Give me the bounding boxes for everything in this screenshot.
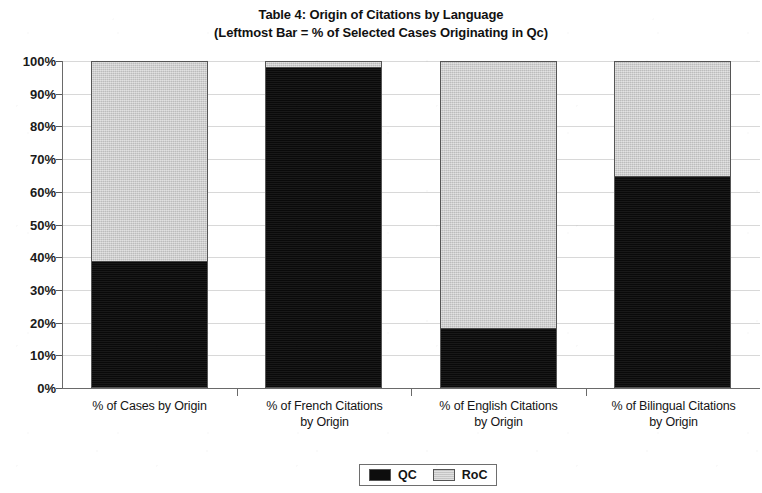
y-axis-tick-label: 10% — [0, 349, 56, 362]
legend-label: RoC — [462, 469, 488, 481]
bar-segment-qc — [615, 176, 730, 388]
bar-segment-qc — [92, 261, 207, 388]
bar-segment-roc — [441, 62, 556, 328]
gray-square-icon — [433, 469, 455, 481]
category-label-line: % of French Citations — [237, 398, 412, 414]
category-label-line: by Origin — [586, 414, 761, 430]
x-axis-category-label: % of French Citationsby Origin — [237, 398, 412, 430]
chart-title: Table 4: Origin of Citations by Language… — [0, 6, 762, 42]
stacked-bar — [440, 61, 557, 388]
category-label-line: % of Cases by Origin — [62, 398, 237, 414]
y-axis-tick-label: 100% — [0, 55, 56, 68]
y-axis-tick-label: 40% — [0, 251, 56, 264]
stacked-bar — [614, 61, 731, 388]
chart-subtitle: (Leftmost Bar = % of Selected Cases Orig… — [0, 24, 762, 42]
category-label-line: % of Bilingual Citations — [586, 398, 761, 414]
y-axis-tick-label: 50% — [0, 218, 56, 231]
y-axis-tick-label: 90% — [0, 87, 56, 100]
chart-plot-area: Table 4: Origin of Citations by Language… — [0, 0, 762, 493]
y-axis-tick-label: 20% — [0, 316, 56, 329]
y-axis-line — [62, 61, 63, 388]
stacked-bar — [265, 61, 382, 388]
category-label-line: by Origin — [411, 414, 586, 430]
black-square-icon — [369, 469, 391, 481]
bar-segment-roc — [92, 62, 207, 261]
bar-segment-roc — [615, 62, 730, 176]
y-axis-tick-label: 80% — [0, 120, 56, 133]
bar-segment-qc — [441, 328, 556, 388]
x-axis-tick-mark — [586, 388, 587, 396]
legend-label: QC — [398, 469, 417, 481]
x-axis-category-label: % of Cases by Origin — [62, 398, 237, 414]
chart-title-line1: Table 4: Origin of Citations by Language — [259, 7, 504, 22]
x-axis-category-label: % of English Citationsby Origin — [411, 398, 586, 430]
legend-item: RoC — [433, 469, 488, 481]
x-axis-tick-mark — [237, 388, 238, 396]
legend-item: QC — [369, 469, 417, 481]
y-axis: 100%90%80%70%60%50%40%30%20%10%0% — [0, 55, 56, 388]
y-axis-tick-label: 60% — [0, 185, 56, 198]
x-axis-category-label: % of Bilingual Citationsby Origin — [586, 398, 761, 430]
y-axis-tick-label: 70% — [0, 153, 56, 166]
category-label-line: by Origin — [237, 414, 412, 430]
chart-legend: QCRoC — [359, 464, 497, 486]
y-axis-tick-label: 0% — [0, 382, 56, 395]
category-label-line: % of English Citations — [411, 398, 586, 414]
bar-segment-qc — [266, 67, 381, 388]
x-axis-tick-mark — [411, 388, 412, 396]
stacked-bar — [91, 61, 208, 388]
y-axis-tick-label: 30% — [0, 283, 56, 296]
